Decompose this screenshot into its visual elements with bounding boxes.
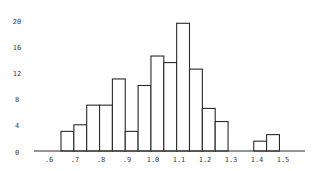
x-tick-label: .9 bbox=[123, 156, 131, 164]
y-tick-label: 8 bbox=[15, 96, 19, 104]
y-axis-tick-labels: 048121620 bbox=[13, 18, 21, 157]
x-tick-label: 1.4 bbox=[251, 156, 264, 164]
y-tick-label: 0 bbox=[15, 149, 19, 157]
x-tick-label: .6 bbox=[45, 156, 53, 164]
x-tick-label: .8 bbox=[97, 156, 105, 164]
histogram-bar bbox=[74, 125, 87, 151]
x-tick-label: .7 bbox=[71, 156, 79, 164]
histogram-bars bbox=[61, 23, 279, 151]
histogram-bar bbox=[125, 131, 138, 151]
y-tick-label: 12 bbox=[13, 70, 21, 78]
x-tick-label: 1.2 bbox=[199, 156, 212, 164]
histogram-bar bbox=[138, 86, 151, 152]
histogram-bar bbox=[177, 23, 190, 151]
x-tick-label: 1.3 bbox=[225, 156, 238, 164]
y-tick-label: 20 bbox=[13, 18, 21, 26]
histogram-bar bbox=[164, 63, 177, 151]
histogram-bar bbox=[202, 108, 215, 151]
y-tick-label: 4 bbox=[15, 122, 19, 130]
histogram-bar bbox=[254, 141, 267, 151]
x-tick-label: 1.1 bbox=[173, 156, 186, 164]
histogram-bar bbox=[100, 105, 113, 151]
x-tick-label: 1.5 bbox=[277, 156, 290, 164]
x-axis-tick-labels: .6.7.8.91.01.11.21.31.41.5 bbox=[45, 156, 290, 164]
histogram-chart: 048121620 .6.7.8.91.01.11.21.31.41.5 bbox=[0, 0, 312, 171]
histogram-bar bbox=[267, 135, 280, 151]
histogram-bar bbox=[87, 105, 100, 151]
histogram-bar bbox=[215, 122, 228, 151]
histogram-bar bbox=[151, 56, 164, 151]
histogram-bar bbox=[112, 79, 125, 151]
y-tick-label: 16 bbox=[13, 44, 21, 52]
histogram-bar bbox=[61, 131, 74, 151]
x-tick-label: 1.0 bbox=[147, 156, 160, 164]
histogram-bar bbox=[190, 69, 203, 151]
